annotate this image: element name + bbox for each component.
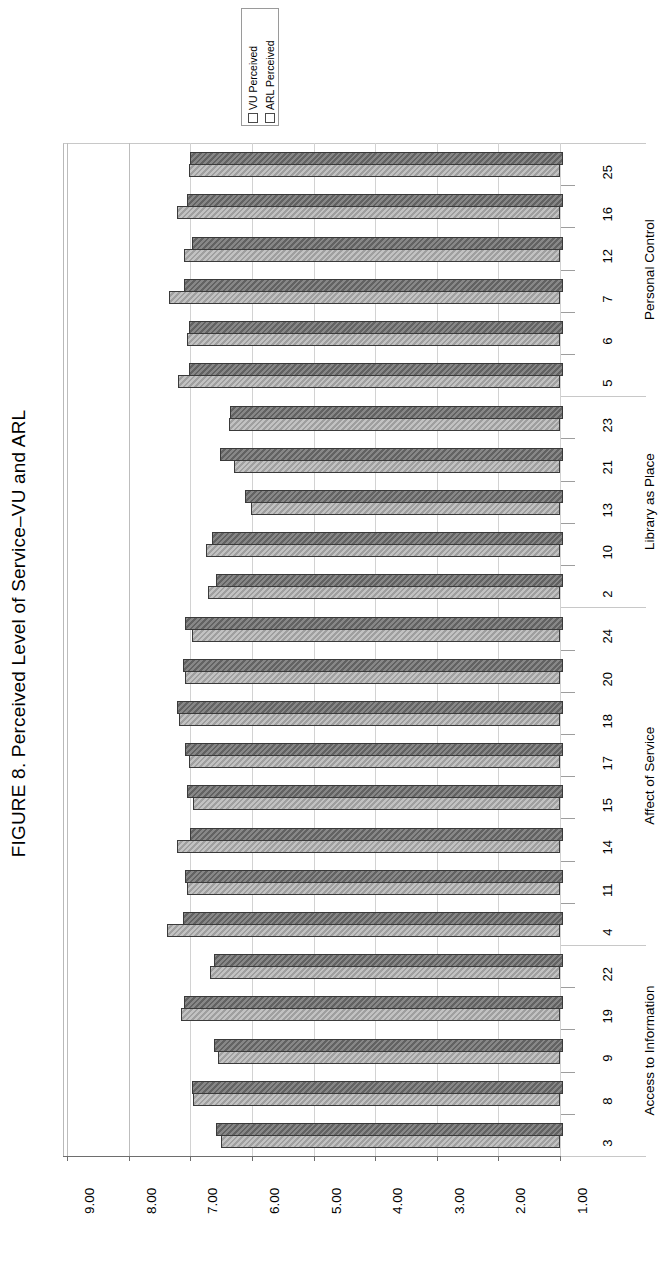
legend-swatch-icon: [265, 113, 275, 123]
bar-vu: [181, 1008, 560, 1021]
category-tick-label: 20: [586, 666, 628, 692]
value-tick-label: 3.00: [448, 1162, 470, 1214]
category-separator: [561, 818, 575, 819]
category-axis-line: [63, 1156, 561, 1157]
group-label: Personal Control: [638, 143, 660, 396]
category-separator: [561, 776, 575, 777]
value-tick-label: 7.00: [201, 1162, 223, 1214]
legend-item-vu: VU Perceived: [244, 9, 261, 123]
legend-swatch-icon: [248, 113, 258, 123]
gridline: [129, 143, 130, 1156]
category-tick-label: 10: [586, 539, 628, 565]
category-separator: [561, 1072, 575, 1073]
category-tick-label: 3: [586, 1130, 628, 1156]
value-tick-mark: [560, 1156, 561, 1161]
value-tick-mark: [314, 1156, 315, 1161]
bar-vu: [221, 1135, 560, 1148]
category-separator: [561, 861, 575, 862]
category-separator: [561, 354, 575, 355]
group-separator: [561, 1156, 646, 1157]
group-separator: [561, 143, 646, 144]
category-separator: [561, 185, 575, 186]
bar-vu: [192, 629, 560, 642]
bar-vu: [184, 249, 560, 262]
value-tick-mark: [498, 1156, 499, 1161]
value-tick-mark: [375, 1156, 376, 1161]
category-separator: [561, 523, 575, 524]
category-separator: [561, 312, 575, 313]
category-separator: [561, 438, 575, 439]
category-tick-label: 5: [586, 370, 628, 396]
bar-vu: [189, 164, 560, 177]
bar-vu: [193, 1093, 560, 1106]
category-tick-label: 11: [586, 877, 628, 903]
value-tick-label: 9.00: [78, 1162, 100, 1214]
category-tick-label: 13: [586, 497, 628, 523]
category-tick-label: 9: [586, 1046, 628, 1072]
category-tick-label: 8: [586, 1088, 628, 1114]
group-label: Affect of Service: [638, 607, 660, 945]
category-tick-label: 14: [586, 835, 628, 861]
category-tick-label: 24: [586, 623, 628, 649]
bar-vu: [178, 375, 560, 388]
category-separator: [561, 227, 575, 228]
group-separator: [561, 396, 646, 397]
group-label: Access to Information: [638, 945, 660, 1156]
category-separator: [561, 692, 575, 693]
bar-vu: [206, 544, 560, 557]
category-tick-label: 21: [586, 455, 628, 481]
bar-vu: [177, 840, 560, 853]
value-tick-mark: [129, 1156, 130, 1161]
legend-item-arl: ARL Perceived: [261, 9, 278, 123]
category-tick-label: 7: [586, 286, 628, 312]
value-tick-label: 6.00: [263, 1162, 285, 1214]
bar-vu: [169, 291, 560, 304]
bar-vu: [187, 333, 560, 346]
category-tick-label: 4: [586, 919, 628, 945]
value-tick-label: 2.00: [509, 1162, 531, 1214]
value-tick-label: 5.00: [325, 1162, 347, 1214]
bar-vu: [218, 1051, 560, 1064]
category-separator: [561, 565, 575, 566]
category-tick-label: 15: [586, 792, 628, 818]
group-separator: [561, 607, 646, 608]
category-tick-label: 18: [586, 708, 628, 734]
category-separator: [561, 903, 575, 904]
category-tick-label: 23: [586, 412, 628, 438]
category-tick-label: 6: [586, 328, 628, 354]
page-title: FIGURE 8. Perceived Level of Service–VU …: [0, 0, 38, 1267]
value-tick-label: 8.00: [140, 1162, 162, 1214]
bar-vu: [208, 586, 560, 599]
value-tick-label: 4.00: [386, 1162, 408, 1214]
value-tick-mark: [67, 1156, 68, 1161]
category-tick-label: 19: [586, 1003, 628, 1029]
bar-vu: [187, 882, 560, 895]
category-tick-label: 22: [586, 961, 628, 987]
bar-vu: [193, 797, 560, 810]
category-tick-label: 2: [586, 581, 628, 607]
value-tick-mark: [190, 1156, 191, 1161]
category-separator: [561, 987, 575, 988]
category-separator: [561, 1114, 575, 1115]
category-separator: [561, 650, 575, 651]
value-tick-mark: [437, 1156, 438, 1161]
gridline: [67, 143, 68, 1156]
bar-vu: [251, 502, 560, 515]
legend-label-vu: VU Perceived: [247, 46, 259, 110]
category-tick-label: 12: [586, 244, 628, 270]
bar-vu: [229, 418, 560, 431]
bar-vu: [177, 206, 560, 219]
bar-vu: [179, 713, 560, 726]
category-tick-label: 17: [586, 750, 628, 776]
category-separator: [561, 270, 575, 271]
bar-vu: [167, 924, 560, 937]
group-label: Library as Place: [638, 396, 660, 607]
category-tick-label: 25: [586, 159, 628, 185]
bar-vu: [189, 755, 560, 768]
value-tick-mark: [252, 1156, 253, 1161]
category-tick-label: 16: [586, 201, 628, 227]
group-separator: [561, 945, 646, 946]
bar-vu: [185, 671, 560, 684]
category-separator: [561, 1029, 575, 1030]
bar-vu: [210, 966, 560, 979]
